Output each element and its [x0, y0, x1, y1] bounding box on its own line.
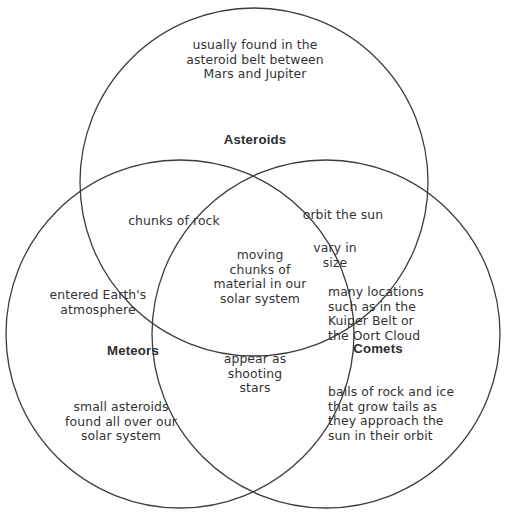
meteors-description-top: entered Earth's atmosphere — [18, 288, 178, 317]
meteors-description-bottom: small asteroids found all over our solar… — [38, 400, 204, 444]
intersection-all-three: moving chunks of material in our solar s… — [199, 248, 321, 306]
asteroids-description: usually found in the asteroid belt betwe… — [155, 38, 355, 82]
intersection-asteroids-meteors: chunks of rock — [105, 214, 243, 229]
venn-diagram: cropped text usually found in the astero… — [0, 0, 507, 514]
comets-description-top: many locations such as in the Kuiper Bel… — [328, 285, 496, 343]
comets-description-bottom: balls of rock and ice that grow tails as… — [328, 385, 500, 443]
intersection-meteors-comets: appear as shooting stars — [205, 352, 305, 396]
set-label-asteroids: Asteroids — [185, 132, 325, 147]
set-label-comets: Comets — [313, 341, 443, 356]
set-label-meteors: Meteors — [68, 343, 198, 358]
intersection-asteroids-comets: orbit the sun — [281, 208, 405, 223]
